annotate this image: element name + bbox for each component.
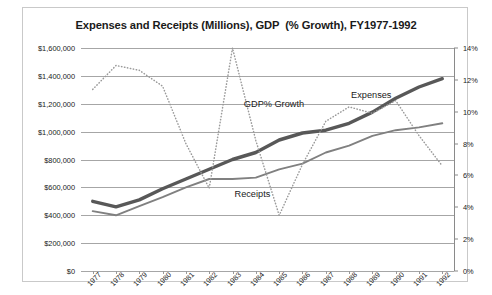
y-axis-left-tick-label: $200,000 <box>44 239 75 248</box>
x-axis-tick-label: 1980 <box>155 270 173 288</box>
y-axis-left-tick-label: $800,000 <box>44 155 75 164</box>
x-axis-tick-label: 1981 <box>178 270 196 288</box>
expenses-label: Expenses <box>351 90 391 100</box>
x-axis-tick-label: 1983 <box>225 270 243 288</box>
y-axis-left-tick-label: $600,000 <box>44 183 75 192</box>
receipts-label: Receipts <box>235 189 271 199</box>
y-axis-right-tick-label: 12% <box>463 75 478 84</box>
series-line-receipts <box>93 123 443 215</box>
x-axis-tick-label: 1977 <box>85 270 103 288</box>
y-axis-left-tick-label: $400,000 <box>44 211 75 220</box>
x-axis-tick-label: 1984 <box>248 270 266 288</box>
chart-frame: Expenses and Receipts (Millions), GDP (%… <box>22 7 468 282</box>
chart-title: Expenses and Receipts (Millions), GDP (%… <box>23 19 469 31</box>
x-axis-tick-label: 1992 <box>435 270 453 288</box>
y-axis-right-tick-label: 2% <box>463 235 474 244</box>
x-axis-tick-label: 1985 <box>271 270 289 288</box>
y-axis-left-tick-label: $1,200,000 <box>38 99 75 108</box>
x-axis-tick-label: 1979 <box>132 270 150 288</box>
series-lines <box>81 48 454 271</box>
y-axis-left-tick-label: $0 <box>67 267 75 276</box>
x-axis-tick-label: 1987 <box>318 270 336 288</box>
x-axis-tick-label: 1989 <box>365 270 383 288</box>
y-axis-right-tick-label: 0% <box>463 267 474 276</box>
gdp-growth-label: GDP% Growth <box>244 99 304 109</box>
x-axis-tick-label: 1982 <box>201 270 219 288</box>
y-axis-right-line <box>454 48 455 271</box>
x-axis-tick-label: 1978 <box>108 270 126 288</box>
x-axis-tick-label: 1991 <box>411 270 429 288</box>
x-axis-tick-label: 1986 <box>295 270 313 288</box>
x-axis-tick-label: 1990 <box>388 270 406 288</box>
y-axis-right-tick-label: 14% <box>463 44 478 53</box>
y-axis-right-tick-label: 10% <box>463 107 478 116</box>
y-axis-right-tick-label: 4% <box>463 203 474 212</box>
x-axis-tick-label: 1988 <box>341 270 359 288</box>
y-axis-right-tick-label: 8% <box>463 139 474 148</box>
y-axis-left-tick-label: $1,000,000 <box>38 127 75 136</box>
plot-area: $0$200,000$400,000$600,000$800,000$1,000… <box>81 48 454 271</box>
y-axis-left-tick-label: $1,400,000 <box>38 71 75 80</box>
y-axis-right-tick-label: 6% <box>463 171 474 180</box>
y-axis-left-tick-label: $1,600,000 <box>38 44 75 53</box>
